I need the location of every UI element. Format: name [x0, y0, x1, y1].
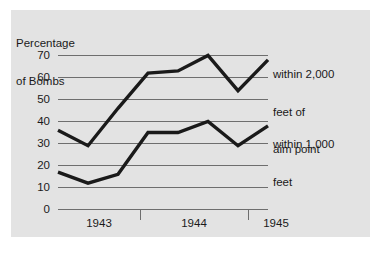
chart-panel: Percentage of Bombs 70 60 50 40 30 20 10…: [11, 10, 370, 237]
series-annotation-lower-line-1: within 1,000: [273, 138, 334, 151]
x-tick-label-1945: 1945: [254, 217, 298, 229]
y-tick-label-0: 0: [24, 203, 50, 215]
y-axis-title-line-1: Percentage: [16, 37, 75, 50]
chart-figure: Percentage of Bombs 70 60 50 40 30 20 10…: [0, 0, 383, 254]
y-tick-label-30: 30: [24, 137, 50, 149]
series-annotation-within-1000-feet: within 1,000 feet: [273, 113, 334, 213]
series-line-within-1000-feet: [58, 122, 268, 184]
x-tick-label-1943: 1943: [77, 217, 121, 229]
y-tick-label-40: 40: [24, 115, 50, 127]
x-tick-label-1944: 1944: [172, 217, 216, 229]
gridlines: [58, 56, 268, 188]
y-tick-label-20: 20: [24, 159, 50, 171]
y-tick-label-60: 60: [24, 71, 50, 83]
series-annotation-upper-line-1: within 2,000: [273, 68, 334, 81]
y-tick-label-70: 70: [24, 49, 50, 61]
y-tick-label-10: 10: [24, 181, 50, 193]
series-annotation-lower-line-2: feet: [273, 176, 334, 189]
y-tick-label-50: 50: [24, 93, 50, 105]
